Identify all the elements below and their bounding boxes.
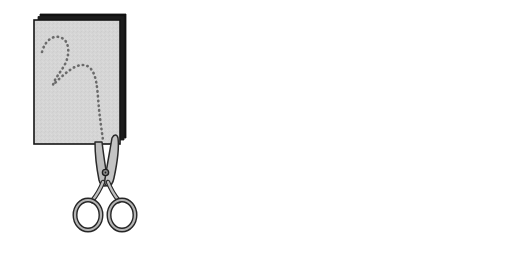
scissors-pivot-center [105, 172, 107, 174]
figure-root: Folded paper with dotted cutting line an… [0, 0, 508, 264]
diagram-canvas [0, 0, 508, 264]
folded-paper-front-sheet [34, 20, 120, 144]
